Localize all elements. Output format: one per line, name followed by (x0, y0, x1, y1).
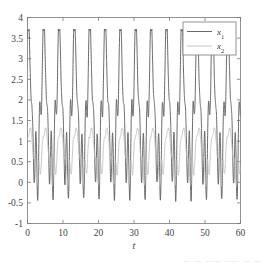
y-tick-label: -0.5 (8, 198, 23, 208)
y-tick-label: 1.5 (11, 116, 23, 126)
x-tick-label: 0 (25, 228, 30, 238)
chart-legend: x1x2 (183, 22, 236, 55)
figure-container: 0102030405060 -1-0.500.511.522.533.54 t … (0, 0, 262, 269)
y-tick-label: -1 (15, 219, 23, 229)
y-tick-label: 1 (18, 137, 23, 147)
x-tick-label: 30 (129, 228, 139, 238)
x-tick-label: 60 (236, 228, 246, 238)
y-tick-label: 0 (18, 178, 23, 188)
x-axis-title: t (133, 240, 136, 251)
y-tick-label: 3 (18, 54, 23, 64)
y-tick-label: 0.5 (11, 157, 23, 167)
legend-box (183, 22, 236, 55)
y-tick-label: 4 (18, 13, 23, 23)
x-tick-label: 20 (94, 228, 104, 238)
y-tick-label: 3.5 (11, 34, 23, 44)
y-tick-label: 2 (18, 95, 23, 105)
y-tick-label: 2.5 (11, 75, 23, 85)
line-chart: 0102030405060 -1-0.500.511.522.533.54 t … (0, 0, 262, 269)
x-tick-label: 40 (165, 228, 175, 238)
caption-fragment: — — —— —— — — (183, 256, 261, 266)
x-axis-title-text: t (133, 240, 136, 251)
x-tick-label: 50 (200, 228, 210, 238)
x-tick-label: 10 (58, 228, 68, 238)
